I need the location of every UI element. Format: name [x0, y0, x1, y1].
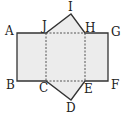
label-E: E	[84, 82, 93, 96]
label-J: J	[40, 19, 47, 33]
label-B: B	[6, 78, 15, 92]
label-C: C	[39, 81, 48, 95]
label-F: F	[111, 78, 119, 92]
label-I: I	[68, 0, 73, 14]
label-A: A	[4, 24, 14, 38]
label-G: G	[111, 25, 121, 39]
label-H: H	[85, 21, 95, 35]
label-D: D	[66, 101, 76, 115]
prism-net-diagram: A J I H G B C E F D	[0, 0, 128, 118]
